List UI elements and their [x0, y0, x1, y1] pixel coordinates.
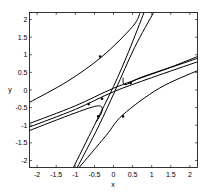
y-tick-label: 1 — [24, 51, 28, 58]
trajectory-line — [79, 71, 197, 168]
direction-arrows — [87, 55, 132, 117]
x-axis-label: x — [111, 181, 115, 188]
direction-arrow-icon — [97, 115, 100, 118]
x-tick-label: -1 — [72, 171, 78, 178]
y-axis-ticks: -2-1.5-1-0.500.511.52 — [15, 16, 197, 164]
y-tick-label: -1.5 — [15, 139, 27, 146]
y-tick-label: 2 — [24, 16, 28, 23]
x-tick-label: -2 — [34, 171, 40, 178]
trajectory-curves — [30, 13, 198, 168]
x-tick-label: 1.5 — [166, 171, 176, 178]
x-tick-label: 0.5 — [128, 171, 138, 178]
x-tick-label: -0.5 — [88, 171, 100, 178]
y-tick-label: 1.5 — [18, 34, 28, 41]
x-tick-label: 0 — [112, 171, 116, 178]
phase-portrait-chart: -2-1.5-1-0.500.511.52 -2-1.5-1-0.500.511… — [0, 0, 209, 193]
axes-box — [30, 13, 198, 168]
direction-arrow-icon — [129, 82, 132, 85]
y-tick-label: 0.5 — [18, 69, 28, 76]
trajectory-line — [77, 13, 153, 168]
y-tick-label: -0.5 — [15, 104, 27, 111]
direction-arrow-icon — [99, 55, 102, 58]
y-tick-label: -2 — [21, 157, 27, 164]
x-tick-label: 1 — [150, 171, 154, 178]
x-tick-label: 2 — [188, 171, 192, 178]
y-tick-label: -1 — [21, 122, 27, 129]
trajectory-line — [30, 58, 198, 123]
y-axis-label: y — [8, 86, 12, 94]
x-tick-label: -1.5 — [50, 171, 62, 178]
trajectory-line — [30, 13, 141, 103]
direction-arrow-icon — [101, 98, 104, 101]
y-tick-label: 0 — [24, 87, 28, 94]
direction-arrow-icon — [122, 115, 125, 118]
direction-arrow-icon — [87, 103, 90, 106]
